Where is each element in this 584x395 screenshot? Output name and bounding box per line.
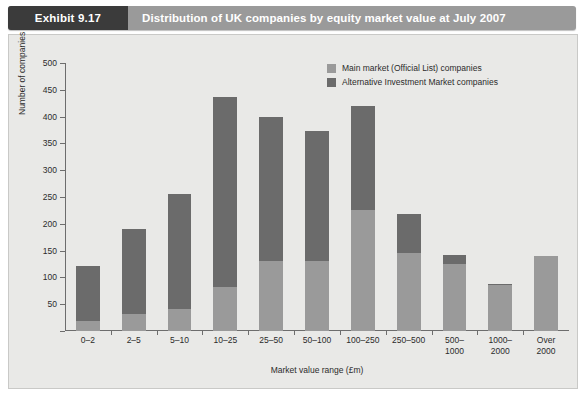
x-axis-category-label: 100–250 — [346, 335, 379, 346]
chart-panel: Number of companies 50100150200250300350… — [8, 34, 578, 389]
x-axis-title: Market value range (£m) — [65, 365, 569, 375]
bar-segment-main-market — [351, 210, 375, 331]
y-axis-tick-label: 150 — [43, 246, 57, 256]
exhibit-number: Exhibit 9.17 — [8, 6, 128, 30]
x-axis-category-label: 50–100 — [303, 335, 331, 346]
bar-segment-aim — [443, 255, 467, 264]
legend-label: Main market (Official List) companies — [342, 63, 482, 73]
bar-column — [443, 255, 467, 331]
bar-column — [488, 284, 512, 331]
x-axis-category-label: Over 2000 — [537, 335, 556, 356]
bar-segment-main-market — [259, 261, 283, 331]
exhibit-header: Exhibit 9.17 Distribution of UK companie… — [8, 6, 576, 30]
x-axis-category-label: 0–2 — [81, 335, 95, 346]
x-axis-category-label: 1000– 2000 — [488, 335, 512, 356]
bar-segment-aim — [76, 266, 100, 322]
bar-segment-main-market — [213, 287, 237, 331]
bar-column — [397, 214, 421, 331]
exhibit-title: Distribution of UK companies by equity m… — [128, 6, 576, 30]
x-axis-category-label: 250–500 — [392, 335, 425, 346]
bar-segment-main-market — [122, 314, 146, 331]
bar-column — [168, 194, 192, 331]
bar-segment-main-market — [168, 309, 192, 332]
y-axis-tick-label: 100 — [43, 272, 57, 282]
legend-item: Alternative Investment Market companies — [327, 77, 498, 87]
chart-legend: Main market (Official List) companiesAlt… — [327, 63, 498, 91]
bar-segment-aim — [397, 214, 421, 253]
bar-column — [351, 106, 375, 331]
x-axis-category-label: 5–10 — [170, 335, 189, 346]
bar-column — [76, 266, 100, 331]
bar-segment-aim — [122, 229, 146, 314]
bar-segment-aim — [351, 106, 375, 211]
y-axis-tick-label: 450 — [43, 85, 57, 95]
legend-swatch-icon — [327, 64, 336, 73]
y-axis-tick-label: 400 — [43, 112, 57, 122]
legend-item: Main market (Official List) companies — [327, 63, 498, 73]
bar-column — [213, 97, 237, 331]
y-axis-tick-label: 350 — [43, 138, 57, 148]
exhibit-figure: Exhibit 9.17 Distribution of UK companie… — [0, 0, 584, 395]
bar-series-group — [65, 63, 569, 331]
y-axis-tick — [60, 331, 65, 332]
bar-segment-aim — [168, 194, 192, 308]
y-axis-tick-label: 50 — [48, 299, 57, 309]
bar-segment-aim — [259, 117, 283, 262]
y-axis-tick-label: 250 — [43, 192, 57, 202]
bar-column — [122, 229, 146, 331]
y-axis-tick-label: 300 — [43, 165, 57, 175]
bar-segment-main-market — [488, 285, 512, 331]
bar-column — [259, 117, 283, 331]
y-axis-title: Number of companies — [17, 32, 27, 115]
legend-swatch-icon — [327, 78, 336, 87]
bar-segment-main-market — [397, 253, 421, 331]
x-axis-category-label: 10–25 — [214, 335, 238, 346]
bar-segment-aim — [305, 131, 329, 261]
x-axis-category-label: 2–5 — [127, 335, 141, 346]
y-axis-tick-label: 200 — [43, 219, 57, 229]
x-axis-labels: 0–22–55–1010–2525–5050–100100–250250–500… — [65, 335, 569, 365]
bar-column — [305, 131, 329, 331]
bar-segment-main-market — [443, 264, 467, 331]
x-axis-category-label: 25–50 — [259, 335, 283, 346]
x-axis-category-label: 500– 1000 — [445, 335, 464, 356]
bar-segment-main-market — [534, 256, 558, 331]
y-axis-tick-label: 500 — [43, 58, 57, 68]
bar-segment-main-market — [76, 321, 100, 331]
plot-area: 50100150200250300350400450500 — [65, 63, 569, 331]
legend-label: Alternative Investment Market companies — [342, 77, 498, 87]
bar-segment-main-market — [305, 261, 329, 331]
bar-segment-aim — [213, 97, 237, 287]
bar-column — [534, 256, 558, 331]
